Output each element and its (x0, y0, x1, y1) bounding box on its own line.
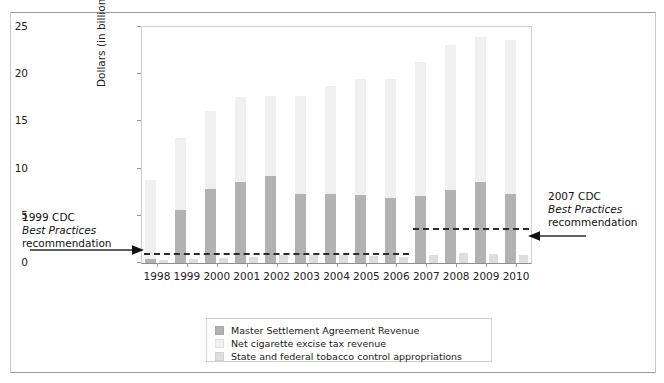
legend-item: Master Settlement Agreement Revenue (215, 324, 483, 336)
bar-segment-excise-tax (205, 111, 216, 189)
x-tick-label: 2007 (410, 270, 442, 282)
bar-stacked-revenue[interactable] (295, 96, 306, 263)
bar-segment-excise-tax (175, 138, 186, 210)
x-tick-mark (516, 263, 517, 267)
bar-appropriations[interactable] (429, 255, 438, 263)
y-tick-label: 15 (0, 115, 28, 125)
bar-segment-msa (235, 182, 246, 263)
bar-group (351, 27, 381, 263)
bar-stacked-revenue[interactable] (235, 97, 246, 263)
x-tick-label: 2005 (350, 270, 382, 282)
bar-appropriations[interactable] (519, 255, 528, 263)
bar-segment-excise-tax (475, 37, 486, 181)
bar-segment-excise-tax (295, 96, 306, 194)
x-tick-mark (277, 263, 278, 267)
figure-container: 2520151050 Dollars (in billions) 1998199… (0, 0, 664, 383)
x-tick-label: 2001 (231, 270, 263, 282)
bar-group (202, 27, 232, 263)
bar-stacked-revenue[interactable] (325, 86, 336, 263)
bar-appropriations[interactable] (189, 259, 198, 263)
x-tick-label: 2004 (321, 270, 353, 282)
bar-segment-msa (265, 176, 276, 263)
y-tick-label: 20 (0, 68, 28, 78)
bar-group (381, 27, 411, 263)
annotation-2007-line1: 2007 CDC (548, 190, 658, 203)
bar-stacked-revenue[interactable] (355, 79, 366, 263)
x-tick-label: 2008 (440, 270, 472, 282)
bar-segment-excise-tax (385, 79, 396, 198)
bar-stacked-revenue[interactable] (385, 79, 396, 263)
x-tick-label: 2000 (201, 270, 233, 282)
x-tick-label: 2006 (380, 270, 412, 282)
chart-legend: Master Settlement Agreement Revenue Net … (206, 318, 492, 362)
y-axis-title: Dollars (in billions) (95, 0, 107, 87)
bar-group (262, 27, 292, 263)
legend-swatch-appropriations (215, 352, 224, 361)
y-tick-label: 25 (0, 21, 28, 31)
x-tick-label: 1999 (171, 270, 203, 282)
legend-item: Net cigarette excise tax revenue (215, 337, 483, 349)
legend-label-msa: Master Settlement Agreement Revenue (231, 325, 419, 336)
bar-segment-msa (445, 190, 456, 263)
bar-appropriations[interactable] (339, 255, 348, 263)
annotation-2007-arrow (528, 226, 590, 236)
bar-appropriations[interactable] (459, 253, 468, 263)
annotation-1999-arrow (30, 240, 145, 250)
x-tick-mark (486, 263, 487, 267)
bar-group (232, 27, 262, 263)
bar-segment-excise-tax (415, 62, 426, 196)
x-tick-mark (337, 263, 338, 267)
x-tick-mark (187, 263, 188, 267)
bar-stacked-revenue[interactable] (415, 62, 426, 263)
left-rule (10, 12, 11, 373)
arrow-right-icon (30, 245, 145, 255)
bar-group (322, 27, 352, 263)
plot-area: Dollars (in billions) 199819992000200120… (141, 26, 532, 264)
bar-appropriations[interactable] (489, 254, 498, 263)
legend-item: State and federal tobacco control approp… (215, 350, 483, 362)
bar-segment-excise-tax (235, 97, 246, 182)
x-tick-label: 2009 (470, 270, 502, 282)
legend-label-excise: Net cigarette excise tax revenue (231, 338, 386, 349)
legend-label-appropriations: State and federal tobacco control approp… (231, 351, 462, 362)
bar-appropriations[interactable] (159, 260, 168, 263)
annotation-1999-line1: 1999 CDC (22, 211, 132, 224)
bar-group (172, 27, 202, 263)
bar-segment-excise-tax (445, 45, 456, 190)
x-tick-mark (217, 263, 218, 267)
x-tick-mark (426, 263, 427, 267)
bar-segment-excise-tax (325, 86, 336, 194)
bar-segment-msa (145, 259, 156, 263)
bar-stacked-revenue[interactable] (145, 180, 156, 263)
bar-appropriations[interactable] (219, 258, 228, 263)
bar-stacked-revenue[interactable] (175, 138, 186, 263)
bar-appropriations[interactable] (279, 255, 288, 263)
x-tick-label: 1998 (141, 270, 173, 282)
reference-line-1999-cdc-best-practices (144, 253, 409, 255)
reference-line-2007-cdc-best-practices (413, 228, 529, 230)
bar-appropriations[interactable] (249, 257, 258, 263)
annotation-2007-cdc: 2007 CDC Best Practices recommendation (548, 190, 658, 229)
x-tick-mark (456, 263, 457, 267)
bar-stacked-revenue[interactable] (265, 96, 276, 263)
x-tick-mark (247, 263, 248, 267)
bar-stacked-revenue[interactable] (205, 111, 216, 263)
legend-swatch-excise (215, 339, 224, 348)
x-tick-label: 2003 (291, 270, 323, 282)
bar-segment-msa (175, 210, 186, 263)
bar-appropriations[interactable] (369, 256, 378, 263)
bar-stacked-revenue[interactable] (445, 45, 456, 263)
bar-appropriations[interactable] (399, 257, 408, 263)
y-tick-label: 10 (0, 163, 28, 173)
y-tick-label: 0 (0, 257, 28, 267)
bar-appropriations[interactable] (309, 255, 318, 263)
bar-segment-excise-tax (505, 40, 516, 194)
bar-segment-excise-tax (145, 180, 156, 259)
bottom-rule (10, 372, 656, 373)
annotation-2007-line2: Best Practices (548, 203, 658, 216)
x-tick-mark (157, 263, 158, 267)
arrow-left-icon (528, 231, 590, 241)
x-tick-mark (307, 263, 308, 267)
x-tick-label: 2010 (500, 270, 532, 282)
bar-group (292, 27, 322, 263)
